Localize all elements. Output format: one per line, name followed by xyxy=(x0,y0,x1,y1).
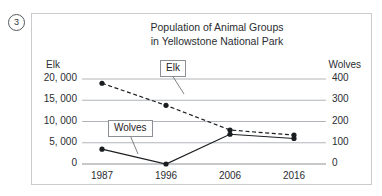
callout-label-elk: Elk xyxy=(160,60,186,77)
right-tick-label: 100 xyxy=(332,136,349,147)
plot-area: 05, 00010, 00015, 00020, 000 01002003004… xyxy=(32,14,373,186)
data-point-elk xyxy=(99,81,104,86)
callout-leader-lines xyxy=(130,75,184,154)
data-point-wolves xyxy=(163,161,168,166)
left-tick-label: 0 xyxy=(71,157,77,168)
series-line-wolves xyxy=(102,134,294,164)
callout-leader-line xyxy=(130,135,138,154)
question-number-badge: 3 xyxy=(8,14,25,31)
x-tick-label: 1987 xyxy=(91,170,113,181)
x-tick-label: 1996 xyxy=(155,170,177,181)
x-tick-label: 2016 xyxy=(283,170,305,181)
left-tick-label: 5, 000 xyxy=(49,136,77,147)
left-tick-label: 20, 000 xyxy=(44,72,77,83)
data-point-wolves xyxy=(227,132,232,137)
worksheet-page: 3 Population of Animal Groupsin Yellowst… xyxy=(0,0,382,196)
data-point-elk xyxy=(163,103,168,108)
right-tick-label: 200 xyxy=(332,115,349,126)
right-tick-label: 0 xyxy=(332,157,338,168)
right-tick-label: 300 xyxy=(332,93,349,104)
right-tick-label: 400 xyxy=(332,72,349,83)
callout-label-wolves: Wolves xyxy=(108,120,153,137)
chart-svg xyxy=(32,14,373,186)
data-point-wolves xyxy=(291,136,296,141)
chart-container: Population of Animal Groupsin Yellowston… xyxy=(31,13,372,185)
callout-leader-line xyxy=(172,75,184,94)
x-tick-label: 2006 xyxy=(219,170,241,181)
left-tick-label: 10, 000 xyxy=(44,115,77,126)
left-tick-label: 15, 000 xyxy=(44,93,77,104)
data-point-wolves xyxy=(99,147,104,152)
